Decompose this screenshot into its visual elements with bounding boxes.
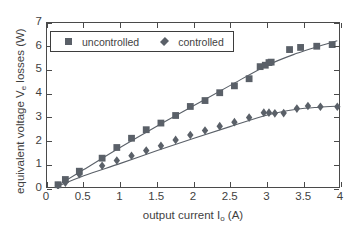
y-axis-label-pre: equivalent voltage V: [14, 90, 26, 194]
y-axis-label-post: losses (W): [14, 28, 26, 86]
y-axis-tick-label: 6: [26, 40, 42, 52]
data-point-controlled: [280, 109, 286, 118]
data-point-controlled: [305, 102, 311, 111]
y-axis-tick: [47, 23, 52, 24]
y-axis-tick-label: 5: [26, 63, 42, 75]
y-axis-tick: [47, 141, 52, 142]
x-axis-tick-label: 3.5: [286, 191, 320, 203]
data-point-uncontrolled: [313, 43, 320, 50]
x-axis-tick-label: 0.5: [66, 191, 100, 203]
data-point-uncontrolled: [246, 75, 253, 82]
y-axis-tick: [334, 70, 339, 71]
x-axis-tick: [47, 182, 48, 187]
x-axis-tick: [83, 23, 84, 28]
data-point-controlled: [334, 102, 340, 111]
data-point-controlled: [294, 104, 300, 113]
square-marker-icon: [60, 38, 77, 45]
x-axis-tick: [304, 182, 305, 187]
series-controlled: [55, 102, 341, 189]
x-axis-tick: [120, 182, 121, 187]
x-axis-tick: [157, 182, 158, 187]
fit-line-controlled: [56, 106, 340, 187]
data-point-uncontrolled: [231, 82, 238, 89]
x-axis-label-main: output current I: [143, 209, 220, 221]
x-axis-tick: [304, 23, 305, 28]
x-axis-tick-label: 2: [176, 191, 210, 203]
x-axis-tick-label: 1.5: [139, 191, 173, 203]
legend-item-controlled: controlled: [156, 36, 224, 48]
x-axis-tick: [120, 23, 121, 28]
data-point-controlled: [172, 136, 178, 145]
data-point-uncontrolled: [268, 59, 275, 66]
x-axis-tick: [157, 23, 158, 28]
x-axis-tick: [230, 182, 231, 187]
data-point-uncontrolled: [172, 112, 179, 119]
y-axis-tick: [47, 165, 52, 166]
y-axis-tick: [334, 189, 339, 190]
data-point-uncontrolled: [113, 144, 120, 151]
chart-legend: uncontrolled controlled: [50, 31, 234, 52]
fit-line-uncontrolled: [56, 41, 338, 187]
data-point-uncontrolled: [143, 126, 150, 133]
y-axis-tick: [334, 141, 339, 142]
legend-item-uncontrolled: uncontrolled: [60, 36, 139, 48]
x-axis-tick-label: 4: [323, 191, 357, 203]
x-axis-tick-label: 0: [29, 191, 63, 203]
y-axis-tick: [334, 94, 339, 95]
y-axis-tick: [334, 165, 339, 166]
x-axis-tick-label: 2.5: [213, 191, 247, 203]
x-axis-label-unit: (A): [225, 209, 244, 221]
x-axis-tick: [194, 23, 195, 28]
data-point-uncontrolled: [202, 97, 209, 104]
x-axis-tick: [230, 23, 231, 28]
y-axis-tick: [47, 117, 52, 118]
y-axis-tick: [334, 117, 339, 118]
data-point-uncontrolled: [99, 155, 106, 162]
x-axis-tick: [341, 23, 342, 28]
data-point-uncontrolled: [187, 103, 194, 110]
data-point-controlled: [231, 118, 237, 127]
legend-label-uncontrolled: uncontrolled: [82, 36, 139, 48]
x-axis-tick: [194, 182, 195, 187]
y-axis-tick: [47, 189, 52, 190]
y-axis-tick: [47, 70, 52, 71]
series-uncontrolled: [55, 41, 338, 188]
x-axis-tick: [267, 182, 268, 187]
x-axis-tick-label: 1: [103, 191, 137, 203]
x-axis-tick: [47, 23, 48, 28]
data-point-uncontrolled: [158, 120, 165, 127]
y-axis-tick-label: 7: [26, 16, 42, 28]
diamond-marker-icon: [156, 38, 173, 45]
data-point-uncontrolled: [128, 135, 135, 142]
data-point-uncontrolled: [216, 89, 223, 96]
data-point-uncontrolled: [297, 44, 304, 51]
y-axis-tick-label: 1: [26, 158, 42, 170]
x-axis-tick: [267, 23, 268, 28]
y-axis-tick-label: 3: [26, 111, 42, 123]
y-axis-tick: [334, 46, 339, 47]
data-point-controlled: [317, 102, 323, 111]
x-axis-tick: [83, 182, 84, 187]
x-axis-tick-label: 3: [250, 191, 284, 203]
x-axis-label: output current Io (A): [46, 209, 340, 223]
chart-figure: equivalent voltage Ve losses (W) output …: [0, 0, 357, 234]
data-point-controlled: [272, 109, 278, 118]
data-point-uncontrolled: [286, 46, 293, 53]
x-axis-tick: [341, 182, 342, 187]
y-axis-tick-label: 2: [26, 135, 42, 147]
y-axis-tick-label: 4: [26, 87, 42, 99]
y-axis-tick: [334, 23, 339, 24]
legend-label-controlled: controlled: [178, 36, 224, 48]
data-point-controlled: [187, 131, 193, 140]
y-axis-tick: [47, 94, 52, 95]
